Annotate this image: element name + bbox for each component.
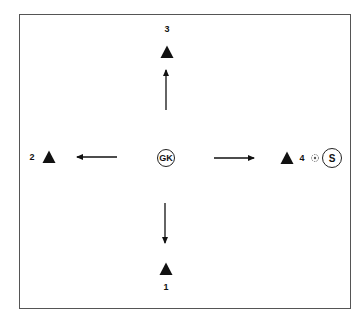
cone-label-2: 2 <box>29 152 34 162</box>
cone-label-3: 3 <box>164 24 169 34</box>
cone-icon-2 <box>43 151 56 164</box>
cone-label-1: 1 <box>163 282 168 292</box>
cone-icon-4 <box>281 152 294 165</box>
server-marker: S <box>322 148 342 168</box>
goalkeeper-marker: GK <box>157 149 175 167</box>
cone-label-4: 4 <box>299 153 304 163</box>
cone-icon-3 <box>161 46 174 59</box>
cone-icon-1 <box>160 263 173 276</box>
drill-graphics <box>0 0 364 319</box>
